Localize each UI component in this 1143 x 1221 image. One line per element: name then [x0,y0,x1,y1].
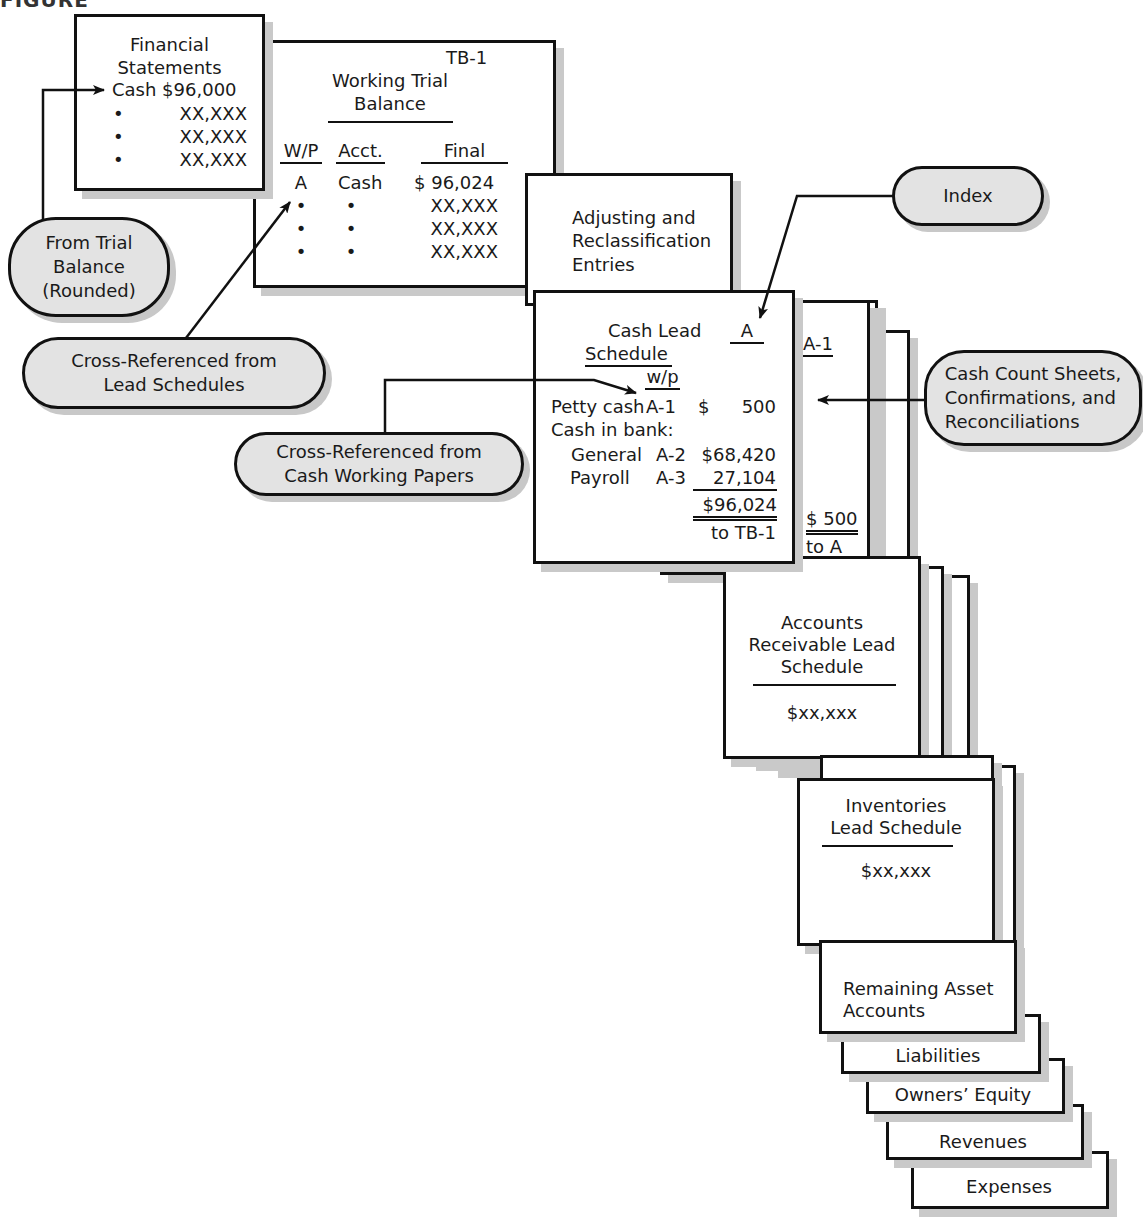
wtb-title-line2: Balance [310,93,470,115]
figure-caption: FIGURE [0,0,89,12]
ar-rule [753,684,896,686]
callout-from-trial-balance: From Trial Balance (Rounded) [8,217,170,317]
callout-crl-line2: Lead Schedules [71,373,277,397]
wtb-title-rule [328,121,453,123]
wtb-col-final: Final [421,140,508,164]
wtb-row-value: XX,XXX [410,218,498,240]
wtb-row-value: XX,XXX [410,241,498,263]
cls-total: $96,024 [693,494,777,521]
callout-ftb-line3: (Rounded) [42,279,136,303]
wtb-title-line1: Working Trial [310,70,470,92]
tab-revenues-label: Revenues [888,1131,1078,1153]
adj-line3: Entries [572,254,635,276]
wtb-bullet: • [336,195,366,217]
pc-index: A-1 [803,333,833,357]
fs-bullet: • [113,126,124,148]
adj-line2: Reclassification [572,230,711,252]
tab-liabilities-label: Liabilities [844,1045,1032,1067]
fs-bullet: • [113,103,124,125]
cls-cash-in-bank: Cash in bank: [551,419,674,441]
wtb-row-final: $ 96,024 [414,172,494,194]
tab-expenses-label: Expenses [914,1176,1104,1198]
cls-petty-wp: A-1 [646,396,676,418]
cls-index: A [730,320,764,344]
wtb-row-acct: Cash [338,172,382,194]
fs-row-value: XX,XXX [150,149,247,171]
callout-crl-line1: Cross-Referenced from [71,349,277,373]
cls-title-line2: Schedule [585,343,672,367]
cls-payroll-label: Payroll [570,467,630,489]
cls-general-wp: A-2 [656,444,686,466]
callout-ftb-line2: Balance [42,255,136,279]
tab-owners-equity-label: Owners’ Equity [868,1084,1058,1106]
cls-petty-amount: 500 [720,396,776,418]
callout-ccs-line3: Reconciliations [945,410,1121,434]
wtb-bullet: • [280,195,322,217]
callout-index: Index [892,166,1044,226]
cls-payroll-amount: 27,104 [690,467,776,489]
cls-petty-label: Petty cash [551,396,645,418]
wtb-bullet: • [280,218,322,240]
fs-title-line2: Statements [77,57,262,79]
ar-line3: Schedule [726,656,918,678]
inv-amount: $xx,xxx [800,860,992,882]
cls-to-ref: to TB-1 [690,522,776,544]
tab-remaining-line1: Remaining Asset [843,978,994,1000]
fs-row-value: XX,XXX [150,103,247,125]
pc-amount: $ 500 [806,508,858,535]
callout-cash-count-sheets: Cash Count Sheets, Confirmations, and Re… [924,350,1142,446]
wtb-bullet: • [336,241,366,263]
callout-ccs-line1: Cash Count Sheets, [945,362,1121,386]
wtb-row-value: XX,XXX [410,195,498,217]
callout-cross-ref-lead-schedules: Cross-Referenced from Lead Schedules [22,337,326,409]
pc-to-ref: to A [806,536,842,558]
ar-line1: Accounts [726,612,918,634]
callout-ftb-line1: From Trial [42,231,136,255]
ar-amount: $xx,xxx [726,702,918,724]
callout-ccs-line2: Confirmations, and [945,386,1121,410]
cls-petty-currency: $ [698,396,709,418]
inv-rule [822,845,953,847]
callout-crc-line1: Cross-Referenced from [276,440,482,464]
callout-index-label: Index [943,184,993,208]
wtb-ref: TB-1 [446,47,487,69]
fs-title-line1: Financial [77,34,262,56]
cls-general-label: General [571,444,642,466]
wtb-bullet: • [336,218,366,240]
cls-subtotal-rule [693,489,777,491]
wtb-col-acct: Acct. [336,140,385,164]
cls-wp-header: w/p [645,366,680,390]
tab-remaining-line2: Accounts [843,1000,925,1022]
fs-bullet: • [113,149,124,171]
cls-payroll-wp: A-3 [656,467,686,489]
wtb-col-wp: W/P [280,140,322,164]
ar-line2: Receivable Lead [726,634,918,656]
callout-crc-line2: Cash Working Papers [276,464,482,488]
wtb-row-wp: A [280,172,322,194]
cls-title-line1: Cash Lead [608,320,701,342]
fs-row-value: XX,XXX [150,126,247,148]
wtb-bullet: • [280,241,322,263]
inv-line2: Lead Schedule [800,817,992,839]
cls-general-amount: $68,420 [690,444,776,466]
callout-cross-ref-cash-working-papers: Cross-Referenced from Cash Working Paper… [234,432,524,496]
inv-line1: Inventories [800,795,992,817]
fs-cash-line: Cash $96,000 [112,79,237,101]
adj-line1: Adjusting and [572,207,696,229]
